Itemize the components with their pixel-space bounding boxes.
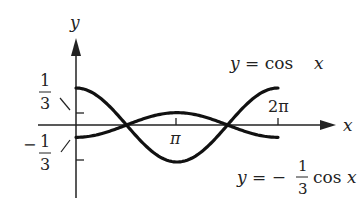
curve2-label-eq: = − xyxy=(252,167,286,187)
pointer-minus-one-third xyxy=(61,140,70,152)
y-axis-arrow-icon xyxy=(71,38,81,56)
label-one-third-num: 1 xyxy=(40,71,50,90)
curve1-label-x: x xyxy=(314,53,324,73)
tick-label-pi: π xyxy=(169,129,181,148)
label-minus-sign: − xyxy=(23,135,36,154)
label-one-third-den: 3 xyxy=(40,94,50,113)
curve2-label-num: 1 xyxy=(298,157,308,175)
x-axis-arrow-icon xyxy=(320,120,336,130)
x-axis-label: x xyxy=(343,115,353,135)
y-axis-label: y xyxy=(69,12,80,32)
curve2-label-x: x xyxy=(347,167,357,187)
tick-label-2pi: 2π xyxy=(268,97,289,116)
curve2-label-y: y xyxy=(236,167,247,187)
label-minus-third-num: 1 xyxy=(40,132,50,151)
cosine-graph: y x π 2π 1 3 − 1 3 y = cos x y = − 1 3 c… xyxy=(0,0,359,220)
pointer-one-third xyxy=(60,98,70,110)
curve2-label-den: 3 xyxy=(298,180,308,198)
curve1-label-y: y xyxy=(229,53,240,73)
curve1-label-eq: = cos xyxy=(245,53,293,73)
curve2-label-cos: cos xyxy=(313,167,341,187)
label-minus-third-den: 3 xyxy=(40,155,50,174)
